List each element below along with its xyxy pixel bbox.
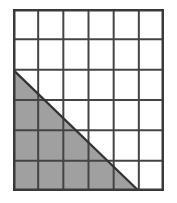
grid-figure — [13, 9, 164, 191]
figure-root — [0, 0, 177, 203]
svg-layers — [13, 9, 164, 191]
grid-svg — [13, 9, 164, 191]
